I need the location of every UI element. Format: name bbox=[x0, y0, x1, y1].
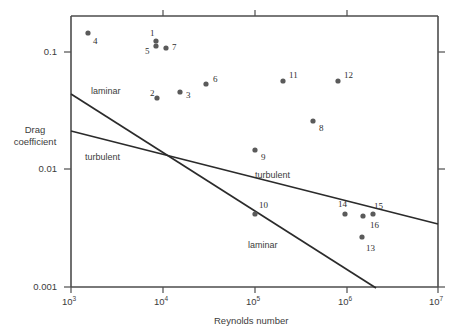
xtick-label-1e7: 107 bbox=[429, 296, 443, 307]
point-label-7: 7 bbox=[172, 42, 177, 52]
xtick-label-1e6-mantissa: 10 bbox=[338, 296, 349, 307]
point-label-1: 1 bbox=[150, 28, 155, 38]
data-point-11 bbox=[280, 78, 285, 83]
xtick-label-1e4: 104 bbox=[154, 296, 168, 307]
xtick-label-1e4-exponent: 4 bbox=[165, 295, 169, 302]
y-axis-title: Drag coefficient bbox=[6, 124, 64, 148]
ytick-label-0.001: 0.001 bbox=[16, 281, 57, 292]
annotation-turbulent-lower: turbulent bbox=[255, 170, 290, 180]
ytick-label-0.1: 0.1 bbox=[24, 46, 57, 57]
data-point-2 bbox=[154, 95, 159, 100]
data-point-16 bbox=[360, 213, 365, 218]
xtick-label-1e4-mantissa: 10 bbox=[154, 296, 165, 307]
x-axis-title: Reynolds number bbox=[214, 315, 288, 326]
data-point-7 bbox=[163, 45, 168, 50]
y-axis-title-line2: coefficient bbox=[6, 136, 64, 148]
annotation-laminar-lower: laminar bbox=[248, 240, 278, 250]
data-point-12 bbox=[335, 78, 340, 83]
xtick-label-1e5: 105 bbox=[246, 296, 260, 307]
point-label-12: 12 bbox=[344, 70, 353, 80]
point-label-2: 2 bbox=[150, 88, 155, 98]
ytick-label-0.01: 0.01 bbox=[20, 163, 57, 174]
trend-line-laminar bbox=[71, 94, 376, 288]
point-label-10: 10 bbox=[259, 200, 268, 210]
y-axis-title-line1: Drag bbox=[6, 124, 64, 136]
xtick-label-1e6-exponent: 6 bbox=[349, 295, 353, 302]
data-point-10 bbox=[252, 211, 257, 216]
point-label-15: 15 bbox=[374, 201, 383, 211]
xtick-label-1e3-exponent: 3 bbox=[73, 295, 77, 302]
point-label-14: 14 bbox=[338, 199, 347, 209]
data-point-5 bbox=[153, 43, 158, 48]
point-label-5: 5 bbox=[145, 46, 150, 56]
plot-canvas bbox=[0, 0, 457, 336]
xtick-label-1e3: 103 bbox=[62, 296, 76, 307]
xtick-label-1e6: 106 bbox=[338, 296, 352, 307]
xtick-label-1e5-exponent: 5 bbox=[257, 295, 261, 302]
data-point-4 bbox=[85, 30, 90, 35]
data-point-9 bbox=[252, 147, 257, 152]
point-label-8: 8 bbox=[319, 123, 324, 133]
point-label-16: 16 bbox=[370, 220, 379, 230]
xtick-label-1e5-mantissa: 10 bbox=[246, 296, 257, 307]
point-label-4: 4 bbox=[93, 36, 98, 46]
point-label-13: 13 bbox=[366, 243, 375, 253]
xtick-label-1e7-exponent: 7 bbox=[440, 295, 444, 302]
data-point-6 bbox=[203, 81, 208, 86]
data-point-1 bbox=[153, 38, 158, 43]
point-label-9: 9 bbox=[261, 152, 266, 162]
xtick-label-1e7-mantissa: 10 bbox=[429, 296, 440, 307]
annotation-laminar-upper: laminar bbox=[91, 86, 121, 96]
data-point-3 bbox=[177, 89, 182, 94]
point-label-6: 6 bbox=[213, 74, 218, 84]
data-point-15 bbox=[370, 211, 375, 216]
data-point-13 bbox=[359, 234, 364, 239]
point-label-3: 3 bbox=[186, 90, 191, 100]
annotation-turbulent-upper: turbulent bbox=[85, 152, 120, 162]
point-label-11: 11 bbox=[289, 70, 298, 80]
drag-coefficient-chart: 0.1 0.01 0.001 Drag coefficient 103 104 … bbox=[0, 0, 457, 336]
data-point-14 bbox=[342, 211, 347, 216]
data-point-8 bbox=[310, 118, 315, 123]
xtick-label-1e3-mantissa: 10 bbox=[62, 296, 73, 307]
